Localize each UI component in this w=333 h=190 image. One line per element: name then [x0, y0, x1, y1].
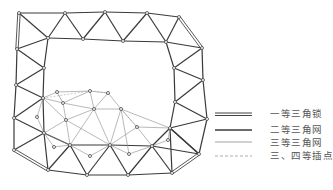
triangulation-point-icon [36, 116, 39, 119]
legend [215, 113, 252, 156]
second-order-edge [199, 119, 207, 154]
second-order-edge [14, 85, 16, 118]
second-order-edge [105, 12, 147, 13]
third-order-edge [70, 109, 94, 145]
triangulation-point-icon [62, 102, 65, 105]
third-order-edge [121, 109, 129, 154]
triangulation-point-icon [89, 90, 92, 93]
third-order-edge [110, 127, 137, 145]
triangulation-point-icon [47, 37, 50, 40]
triangulation-point-icon [171, 172, 174, 175]
triangulation-point-icon [43, 67, 46, 70]
second-order-edge [44, 38, 48, 68]
second-order-edge [44, 133, 48, 170]
third-order-edge [121, 109, 170, 128]
second-order-network-layer [14, 12, 207, 175]
legend-label-fourth-order: 三、四等插点 [270, 150, 333, 161]
second-order-edge [48, 38, 83, 39]
legend-symbol-first-order [215, 113, 252, 116]
first-order-edge [16, 13, 18, 49]
second-order-edge [174, 68, 175, 102]
triangulation-point-icon [136, 126, 139, 129]
triangulation-point-icon [43, 132, 46, 135]
second-order-edge [16, 68, 44, 85]
third-order-edge [63, 91, 90, 103]
second-order-edge [83, 12, 105, 39]
triangulation-point-icon [104, 11, 107, 14]
second-order-edge [175, 102, 207, 119]
triangulation-point-icon [167, 139, 170, 142]
second-order-edge [147, 13, 166, 42]
triangulation-point-icon [65, 119, 68, 122]
second-order-edge [14, 98, 43, 118]
second-order-edge [174, 68, 203, 80]
second-order-edge [14, 118, 44, 133]
triangulation-point-icon [42, 97, 45, 100]
second-order-edge [170, 128, 172, 173]
triangulation-point-icon [178, 16, 181, 19]
third-order-edge [66, 120, 70, 145]
third-order-edge [44, 133, 70, 145]
triangulation-points-layer [13, 11, 209, 177]
triangulation-point-icon [86, 174, 89, 177]
triangulation-point-icon [173, 67, 176, 70]
second-order-edge [203, 80, 207, 119]
second-order-edge [48, 13, 65, 38]
second-order-edge [14, 133, 44, 150]
legend-label-second-order: 二等三角网 [270, 124, 323, 135]
triangulation-point-icon [18, 12, 21, 15]
triangulation-point-icon [174, 101, 177, 104]
triangulation-point-icon [15, 84, 18, 87]
triangulation-point-icon [64, 12, 67, 15]
second-order-edge [43, 68, 44, 98]
second-order-edge [166, 42, 174, 68]
first-order-edge [15, 149, 49, 169]
triangulation-point-icon [198, 153, 201, 156]
triangulation-point-icon [165, 41, 168, 44]
second-order-edge [166, 17, 179, 42]
triangulation-point-icon [169, 127, 172, 130]
second-order-edge [19, 13, 48, 38]
first-order-edge [180, 16, 203, 47]
triangulation-point-icon [120, 108, 123, 111]
second-order-edge [202, 48, 203, 80]
third-order-edge [137, 127, 152, 146]
second-order-edge [48, 145, 70, 170]
triangulation-point-icon [82, 38, 85, 41]
third-order-edge [94, 109, 110, 145]
triangulation-point-icon [127, 174, 130, 177]
second-order-edge [110, 145, 152, 146]
fourth-order-edge [43, 91, 90, 98]
triangulation-point-icon [151, 145, 154, 148]
triangulation-point-icon [13, 149, 16, 152]
second-order-edge [65, 13, 83, 39]
second-order-edge [16, 85, 43, 98]
second-order-edge [128, 173, 172, 175]
second-order-edge [123, 13, 147, 41]
second-order-edge [87, 145, 110, 175]
triangulation-point-icon [109, 144, 112, 147]
second-order-edge [170, 102, 175, 128]
third-order-edge [108, 93, 121, 109]
triangulation-point-icon [53, 146, 56, 149]
second-order-edge [170, 119, 207, 128]
second-order-edge [175, 80, 203, 102]
triangulation-point-icon [47, 169, 50, 172]
third-order-edge [44, 120, 66, 133]
legend-label-first-order: 一等三角锁 [270, 108, 323, 119]
second-order-edge [17, 38, 48, 49]
first-order-edge [173, 155, 200, 174]
first-order-edge [18, 13, 20, 49]
triangulation-point-icon [93, 108, 96, 111]
legend-label-third-order: 三等三角网 [270, 137, 323, 148]
triangulation-point-icon [202, 79, 205, 82]
third-order-edge [110, 109, 121, 145]
second-order-edge [147, 13, 179, 17]
second-order-edge [17, 49, 44, 68]
fourth-order-insertion-layer [43, 91, 137, 127]
second-order-edge [174, 48, 202, 68]
triangulation-point-icon [128, 153, 131, 156]
second-order-edge [152, 128, 170, 146]
third-order-edge [54, 145, 70, 147]
